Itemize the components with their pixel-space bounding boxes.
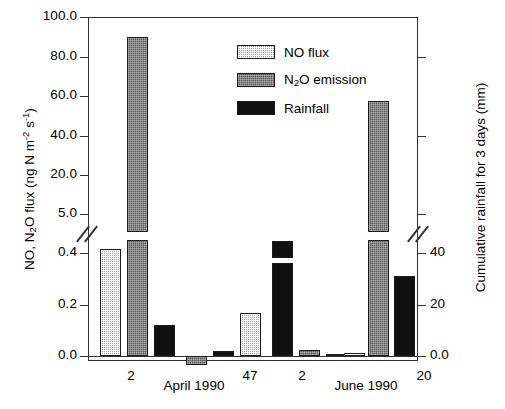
legend-item-no-flux: NO flux: [237, 41, 367, 63]
y-tick-0p0: [80, 356, 89, 357]
bar-n2o-g2-negative: [186, 356, 207, 365]
y-tick-0p2: [80, 305, 89, 306]
y-tick-100: [80, 17, 89, 18]
y-tick-label-80: 80.0: [50, 48, 77, 63]
x-tick-label-day-2-june: 2: [298, 368, 306, 383]
x-tick-label-day-47-april: 47: [242, 368, 257, 383]
y-tick-label-60: 60.0: [50, 87, 77, 102]
bar-no-flux-g2: [240, 313, 261, 356]
y-tick-label-0p2: 0.2: [58, 296, 77, 311]
bar-n2o-g1-lower: [127, 240, 148, 356]
x-group-label-april-1990: April 1990: [164, 378, 225, 393]
y-axis-right-title-text: Cumulative rainfall for 3 days (mm): [473, 83, 488, 292]
legend-label-rainfall: Rainfall: [284, 101, 329, 116]
legend: NO flux N2O emission Rainfall: [237, 41, 367, 125]
y-tick-0p4: [80, 253, 89, 254]
y2-tick-label-40: 40: [430, 244, 445, 259]
x-group-label-june-1990: June 1990: [334, 378, 397, 393]
y-tick-label-0p0: 0.0: [58, 347, 77, 362]
y2-tick-upper-2: [417, 136, 426, 137]
x-tick-label-day-20-june: 20: [416, 368, 431, 383]
y-tick-60: [80, 96, 89, 97]
legend-swatch-n2o-emission: [237, 73, 275, 87]
bar-n2o-g3: [299, 350, 320, 356]
y-axis-left-title: NO, N2O flux (ng N m-2 s-1): [20, 64, 38, 314]
y-tick-40: [80, 136, 89, 137]
legend-label-no-flux: NO flux: [284, 45, 329, 60]
bar-no-flux-g1: [100, 249, 121, 356]
y-tick-80: [80, 57, 89, 58]
y-axis-left-title-text: NO, N2O flux (ng N m-2 s-1): [22, 108, 37, 270]
x-tick-label-day-2-april: 2: [127, 368, 135, 383]
bar-rainfall-g1: [154, 325, 175, 356]
y2-tick-20: [417, 305, 426, 306]
bar-n2o-g4-lower: [368, 240, 389, 356]
bar-n2o-g1-upper: [127, 37, 148, 232]
legend-item-rainfall: Rainfall: [237, 97, 367, 119]
legend-label-n2o-emission: N2O emission: [284, 72, 367, 88]
y-tick-5: [80, 214, 89, 215]
y-tick-label-0p4: 0.4: [58, 244, 77, 259]
legend-swatch-rainfall: [237, 101, 275, 115]
y-tick-label-20: 20.0: [50, 166, 77, 181]
y2-tick-upper-1: [417, 57, 426, 58]
y2-tick-0: [417, 356, 426, 357]
legend-item-n2o-emission: N2O emission: [237, 69, 367, 91]
bar-rainfall-g4: [394, 276, 415, 356]
bar-n2o-g4-upper: [368, 101, 389, 232]
y2-tick-label-20: 20: [430, 296, 445, 311]
y2-tick-40: [417, 253, 426, 254]
bar-rainfall-g2: [213, 351, 234, 356]
y2-tick-label-0: 0.0: [430, 347, 449, 362]
y-tick-label-40: 40.0: [50, 127, 77, 142]
y-tick-label-100: 100.0: [43, 8, 77, 23]
y2-tick-upper-3: [417, 214, 426, 215]
figure-bar-chart: NO, N2O flux (ng N m-2 s-1) Cumulative r…: [0, 0, 505, 409]
legend-swatch-no-flux: [237, 45, 275, 59]
y-axis-right-title: Cumulative rainfall for 3 days (mm): [473, 63, 488, 313]
y-tick-label-5: 5.0: [58, 205, 77, 220]
bar-rainfall-g3-upper: [272, 241, 293, 258]
bar-no-flux-g4: [344, 353, 365, 356]
y-tick-20: [80, 175, 89, 176]
bar-rainfall-g3-lower: [272, 263, 293, 356]
